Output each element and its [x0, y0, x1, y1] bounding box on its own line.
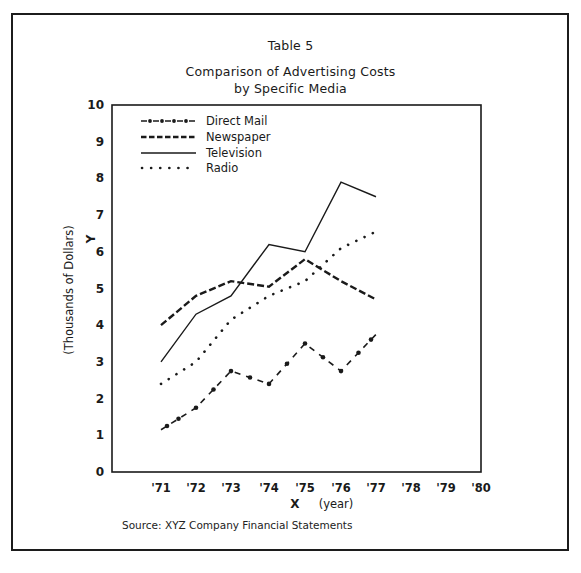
x-tick-label: '77: [366, 481, 386, 495]
y-tick-label: 2: [96, 392, 104, 406]
x-tick-label: '78: [401, 481, 421, 495]
legend-label-newspaper: Newspaper: [206, 130, 271, 144]
x-tick-label: '74: [259, 481, 279, 495]
x-tick-label: '75: [295, 481, 315, 495]
legend-item-television: Television: [141, 146, 262, 160]
legend-label-radio: Radio: [206, 161, 238, 175]
direct-mail-marker: [285, 361, 290, 366]
y-tick-label: 10: [87, 98, 104, 112]
series-line-radio: [161, 232, 376, 384]
direct-mail-marker: [321, 355, 326, 360]
x-tick-label: '73: [221, 481, 241, 495]
y-tick-label: 6: [96, 245, 104, 259]
plot-frame: [112, 105, 481, 472]
y-axis-letter: Y: [84, 234, 98, 244]
direct-mail-marker: [267, 382, 272, 387]
y-tick-label: 1: [96, 428, 104, 442]
y-tick-label: 4: [96, 318, 104, 332]
y-tick-label: 8: [96, 171, 104, 185]
x-axis-title: (year): [319, 497, 354, 511]
series-line-television: [161, 182, 376, 362]
x-axis-ticks: '71'72'73'74'75'76'77'78'79'80: [151, 481, 491, 495]
direct-mail-marker: [339, 369, 344, 374]
direct-mail-marker: [356, 350, 361, 355]
x-tick-label: '76: [331, 481, 351, 495]
y-axis-ticks: 012345678910: [87, 98, 104, 479]
source-note: Source: XYZ Company Financial Statements: [122, 519, 352, 531]
y-tick-label: 7: [96, 208, 104, 222]
series-line-newspaper: [161, 259, 376, 325]
y-tick-label: 0: [96, 465, 104, 479]
clipped-figure-caption: [120, 565, 320, 573]
direct-mail-marker: [229, 369, 234, 374]
direct-mail-marker: [248, 375, 253, 380]
legend-item-newspaper: Newspaper: [141, 130, 271, 144]
x-tick-label: '80: [471, 481, 491, 495]
direct-mail-marker: [194, 405, 199, 410]
legend-item-direct-mail: Direct Mail: [141, 114, 267, 128]
x-axis-letter: X: [290, 497, 300, 511]
series-layer: [161, 182, 376, 430]
x-tick-label: '72: [186, 481, 206, 495]
y-axis-title: (Thousands of Dollars): [62, 225, 76, 355]
direct-mail-marker: [369, 337, 374, 342]
y-tick-label: 9: [96, 135, 104, 149]
line-chart: 012345678910 '71'72'73'74'75'76'77'78'79…: [0, 0, 581, 573]
y-tick-label: 5: [96, 282, 104, 296]
direct-mail-marker: [303, 341, 308, 346]
y-tick-label: 3: [96, 355, 104, 369]
direct-mail-marker: [165, 424, 170, 429]
x-tick-label: '79: [436, 481, 456, 495]
direct-mail-marker: [211, 387, 216, 392]
direct-mail-marker: [176, 416, 181, 421]
legend-label-television: Television: [205, 146, 262, 160]
legend-label-direct-mail: Direct Mail: [206, 114, 267, 128]
legend-item-radio: Radio: [142, 161, 238, 175]
legend: Direct Mail Newspaper Television Radio: [141, 114, 271, 175]
x-tick-label: '71: [151, 481, 171, 495]
